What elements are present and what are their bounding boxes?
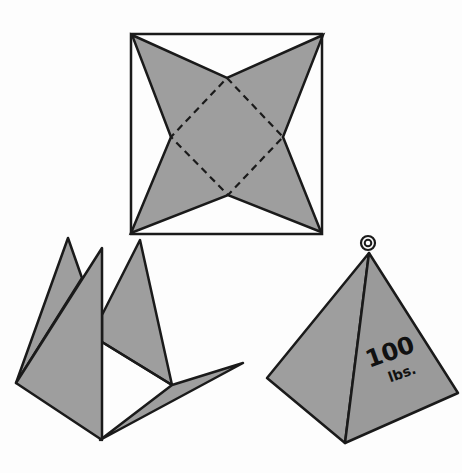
star-shape — [131, 35, 323, 233]
flap-bottom-right — [100, 363, 243, 440]
ring-outer-icon — [361, 236, 375, 250]
folding-step — [16, 238, 243, 440]
finished-pyramid — [267, 236, 458, 443]
diagram-canvas: 100 lbs. — [0, 0, 462, 473]
flat-pattern — [131, 34, 323, 234]
